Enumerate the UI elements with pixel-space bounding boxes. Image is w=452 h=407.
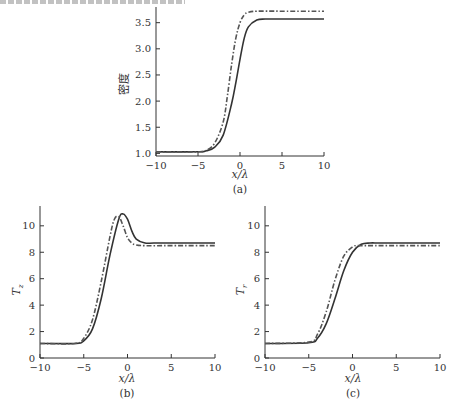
dashdot-series-line (40, 216, 215, 344)
y-tick-label: 1.5 (135, 122, 151, 133)
panel-b-ylabel: Tz (10, 284, 25, 295)
solid-series-line (265, 243, 440, 344)
panel-b: −10−505100246810 (22, 206, 221, 373)
y-tick-label: 10 (22, 220, 35, 231)
y-tick-label: 1.0 (135, 148, 151, 159)
x-tick-label: −5 (301, 362, 316, 373)
x-tick-label: 10 (318, 160, 331, 171)
x-tick-label: 5 (279, 160, 285, 171)
panel-b-caption: (b) (120, 387, 135, 399)
panel-a-caption: (a) (233, 183, 247, 195)
panel-a: −10−505101.01.52.02.53.03.5 (135, 7, 330, 171)
x-tick-label: 5 (168, 362, 174, 373)
panel-c: −10−505100246810 (247, 206, 446, 373)
x-tick-label: 5 (393, 362, 399, 373)
y-tick-label: 2.5 (135, 69, 151, 80)
y-tick-label: 2.0 (135, 96, 151, 107)
panel-c-xlabel: x/λ (345, 372, 362, 385)
y-tick-label: 8 (29, 247, 35, 258)
solid-series-line (40, 214, 215, 344)
panel-a-xlabel: x/λ (232, 168, 249, 181)
x-tick-label: 10 (209, 362, 222, 373)
x-tick-label: −5 (76, 362, 91, 373)
y-tick-label: 3.5 (135, 17, 151, 28)
y-tick-label: 4 (29, 300, 35, 311)
x-tick-label: 10 (434, 362, 447, 373)
panel-c-caption: (c) (346, 387, 360, 399)
y-tick-label: 10 (247, 220, 260, 231)
dashdot-series-line (265, 246, 440, 344)
y-tick-label: 0 (254, 353, 260, 364)
x-tick-label: −10 (254, 362, 275, 373)
y-tick-label: 0 (29, 353, 35, 364)
solid-series-line (156, 19, 324, 152)
panel-b-xlabel: x/λ (119, 372, 136, 385)
y-tick-label: 6 (254, 273, 260, 284)
y-tick-label: 2 (254, 326, 260, 337)
y-tick-label: 3.0 (135, 43, 151, 54)
y-tick-label: 8 (254, 247, 260, 258)
x-tick-label: −10 (29, 362, 50, 373)
y-tick-label: 4 (254, 300, 260, 311)
panel-a-ylabel: 密度 (117, 73, 131, 95)
panel-c-ylabel: Tr (234, 284, 249, 295)
y-tick-label: 6 (29, 273, 35, 284)
dashdot-series-line (156, 11, 324, 152)
x-tick-label: −5 (191, 160, 206, 171)
y-tick-label: 2 (29, 326, 35, 337)
figure: −10−505101.01.52.02.53.03.5 −10−50510024… (0, 0, 452, 407)
x-tick-label: −10 (145, 160, 166, 171)
